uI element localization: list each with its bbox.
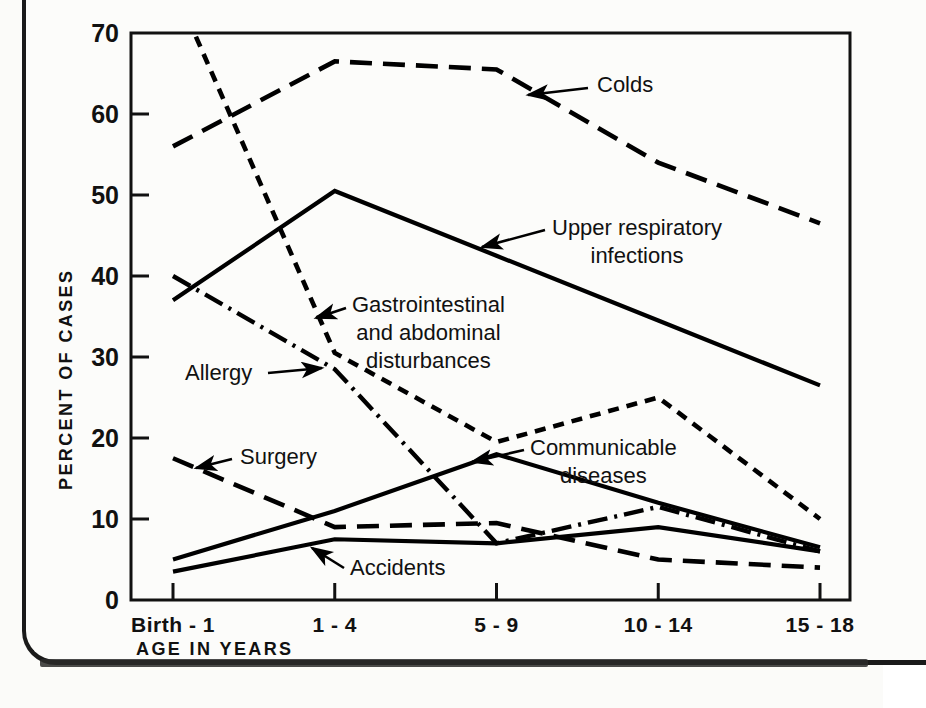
leader-arrow-surgery [196, 459, 232, 468]
series-line-allergy [173, 276, 820, 551]
series-label-communicable-diseases: Communicable [530, 435, 677, 460]
y-axis-title: PERCENT OF CASES [56, 269, 76, 490]
x-tick-label: Birth - 1 [131, 613, 215, 636]
series-label-colds: Colds [597, 72, 653, 97]
leader-arrow-allergy [268, 368, 322, 373]
y-axis-ticks [131, 114, 149, 519]
series-label-upper-respiratory-infections: Upper respiratory [552, 215, 722, 240]
y-tick-label: 10 [91, 505, 119, 533]
series-label-accidents: Accidents [350, 555, 445, 580]
series-label-surgery: Surgery [240, 444, 317, 469]
x-tick-label: 1 - 4 [312, 613, 357, 636]
leader-arrow-gastrointestinal-and-abdominal-disturbances [316, 308, 346, 318]
y-tick-label: 40 [91, 262, 119, 290]
y-tick-label: 30 [91, 343, 119, 371]
series-label-upper-respiratory-infections-line2: infections [591, 243, 684, 268]
series-line-colds [173, 61, 820, 223]
y-tick-label: 50 [91, 181, 119, 209]
x-axis-title: AGE IN YEARS [136, 639, 294, 659]
y-tick-label: 0 [105, 586, 119, 614]
series-label-gastrointestinal-and-abdominal-disturbances: Gastrointestinal [352, 292, 505, 317]
y-tick-label: 70 [91, 19, 119, 47]
y-tick-label: 60 [91, 100, 119, 128]
x-tick-label: 5 - 9 [474, 613, 519, 636]
x-tick-label: 10 - 14 [624, 613, 693, 636]
series-label-gastrointestinal-and-abdominal-disturbances-line2: and abdominal [356, 320, 500, 345]
series-line-upper-respiratory-infections [173, 191, 820, 385]
data-series-group [173, 0, 820, 572]
x-axis-ticks [173, 583, 820, 600]
series-label-communicable-diseases-line2: diseases [560, 463, 647, 488]
leader-arrow-accidents [312, 548, 344, 568]
y-axis-tick-labels: 010203040506070 [91, 19, 119, 614]
series-text-labels: ColdsUpper respiratoryinfectionsGastroin… [185, 72, 722, 580]
series-label-allergy: Allergy [185, 360, 252, 385]
leader-arrow-upper-respiratory-infections [482, 230, 545, 247]
x-tick-label: 15 - 18 [786, 613, 855, 636]
leader-arrow-colds [528, 88, 588, 95]
y-tick-label: 20 [91, 424, 119, 452]
series-label-gastrointestinal-and-abdominal-disturbances-line3: disturbances [366, 348, 491, 373]
x-axis-tick-labels: Birth - 11 - 45 - 910 - 1415 - 18 [131, 613, 854, 636]
series-line-gastrointestinal-and-abdominal-disturbances [173, 0, 820, 519]
